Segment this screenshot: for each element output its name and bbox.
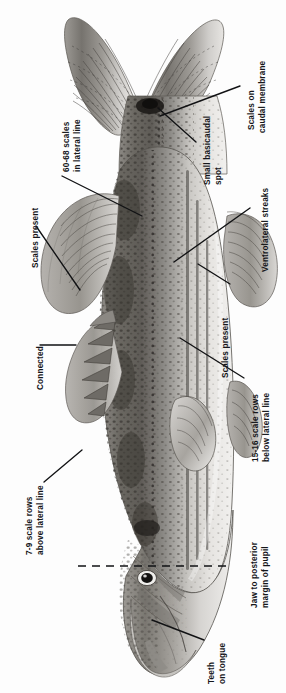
- annotation-small-basicaudal-spot: Small basicaudal: [203, 116, 214, 185]
- figure-page: Scales on caudal membrane Small basicaud…: [0, 0, 286, 693]
- annotation-small-basicaudal-spot-line2: spot: [214, 167, 225, 185]
- annotation-jaw-to-posterior-margin-of-pupil-line2: margin of pupil: [261, 546, 272, 608]
- eye: [138, 570, 157, 585]
- annotation-scales-on-caudal-membrane: Scales on: [247, 90, 258, 130]
- annotation-scale-rows-below-lateral-line-line2: below lateral line: [262, 393, 273, 462]
- annotation-teeth-on-tongue: Teeth: [207, 662, 218, 684]
- annotation-teeth-on-tongue-line2: on tongue: [218, 643, 229, 684]
- annotation-scales-in-lateral-line: 60-68 scales: [62, 122, 73, 172]
- annotation-ventrolateral-streaks: Ventrolateral streaks: [261, 188, 272, 272]
- annotation-scales-present-left: Scales present: [31, 208, 42, 268]
- annotation-jaw-to-posterior-margin-of-pupil: Jaw to posterior: [250, 542, 261, 608]
- annotation-scale-rows-below-lateral-line: 15-16 scale rows: [251, 394, 262, 462]
- annotation-scales-in-lateral-line-line2: in lateral line: [73, 119, 84, 172]
- annotation-scale-rows-above-lateral-line-line2: above lateral line: [36, 485, 47, 555]
- annotation-scale-rows-above-lateral-line: 7-9 scale rows: [25, 496, 36, 555]
- annotation-connected: Connected: [36, 346, 47, 390]
- annotation-scales-present-right: Scales present: [221, 318, 232, 378]
- annotation-scales-on-caudal-membrane-line2: caudal membrane: [258, 61, 269, 133]
